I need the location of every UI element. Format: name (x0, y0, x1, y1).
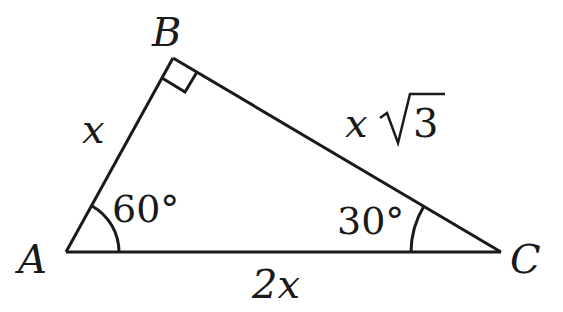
angle-label-a: 60° (112, 187, 179, 231)
vertex-label-b: B (151, 9, 181, 55)
side-label-bc-var: x (345, 100, 368, 146)
side-label-ac: 2x (251, 261, 300, 307)
side-label-bc-radicand: 3 (413, 100, 438, 146)
vertex-label-a: A (14, 236, 47, 282)
angle-arc-c (411, 206, 424, 252)
right-angle-marker (162, 72, 197, 92)
side-label-ab: x (82, 106, 105, 152)
angle-label-c: 30° (337, 199, 404, 243)
vertex-label-c: C (510, 236, 541, 282)
triangle-figure: B A C x x 3 2x 60° 30° (0, 0, 563, 312)
triangle-diagram: B A C x x 3 2x 60° 30° (0, 0, 563, 312)
